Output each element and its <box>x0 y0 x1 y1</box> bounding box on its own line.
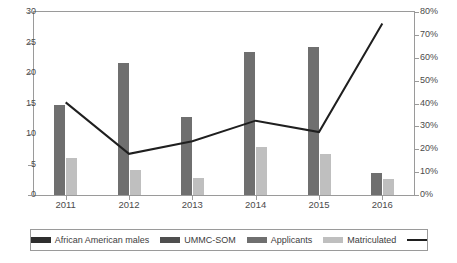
bar-applicants-2012 <box>118 63 129 195</box>
legend-item-label: Matriculated <box>347 236 396 245</box>
legend-item[interactable]: UMMC-SOM <box>160 236 236 245</box>
right-axis-tick-label: 20% <box>420 144 452 153</box>
legend-item[interactable]: Applicants <box>247 236 313 245</box>
chart-container: 051015202530 0%10%20%30%40%50%60%70%80% … <box>0 0 457 263</box>
right-axis-tickmark <box>414 35 419 36</box>
legend-item[interactable] <box>407 239 427 241</box>
right-axis-tick-label: 80% <box>420 7 452 16</box>
left-axis-tick-label: 25 <box>10 38 36 47</box>
category-axis-label: 2011 <box>44 200 88 210</box>
left-axis-tickmark <box>28 134 33 135</box>
legend-item-label: UMMC-SOM <box>184 236 236 245</box>
right-axis-tick-label: 70% <box>420 30 452 39</box>
legend-item[interactable]: Matriculated <box>323 236 396 245</box>
left-axis-tickmark <box>28 195 33 196</box>
bar-applicants-2013 <box>181 117 192 195</box>
bar-applicants-2014 <box>244 52 255 195</box>
right-axis-tick-label: 0% <box>420 190 452 199</box>
right-axis-tick-label: 30% <box>420 121 452 130</box>
right-axis-tickmark <box>414 104 419 105</box>
right-axis-tickmark <box>414 172 419 173</box>
right-axis-tick-label: 50% <box>420 76 452 85</box>
bar-applicants-2016 <box>371 173 382 195</box>
right-axis-tickmark <box>414 81 419 82</box>
right-axis-tickmark <box>414 126 419 127</box>
bar-matriculated-2011 <box>66 158 77 195</box>
category-axis-tickmark <box>382 196 383 200</box>
bars-layer <box>34 12 414 195</box>
bar-applicants-2015 <box>308 47 319 195</box>
left-axis-tickmark <box>28 104 33 105</box>
category-axis-label: 2016 <box>360 200 404 210</box>
right-axis-tick-label: 60% <box>420 53 452 62</box>
category-axis-tickmark <box>319 196 320 200</box>
legend-color-swatch-icon <box>247 237 267 243</box>
right-axis-tick-label: 40% <box>420 99 452 108</box>
bar-matriculated-2015 <box>320 154 331 195</box>
bar-matriculated-2012 <box>130 170 141 195</box>
category-axis-tickmark <box>256 196 257 200</box>
legend-color-swatch-icon <box>160 237 180 243</box>
left-axis-tickmark <box>28 73 33 74</box>
legend-line-swatch-icon <box>407 239 427 241</box>
bar-matriculated-2014 <box>256 147 267 195</box>
category-axis-label: 2012 <box>107 200 151 210</box>
category-axis-tickmark <box>192 196 193 200</box>
category-axis-label: 2014 <box>234 200 278 210</box>
bar-applicants-2011 <box>54 105 65 195</box>
category-axis-tickmark <box>66 196 67 200</box>
right-axis-tickmark <box>414 12 419 13</box>
right-axis-tickmark <box>414 149 419 150</box>
legend-item-label: African American males <box>55 236 150 245</box>
right-axis-tick-label: 10% <box>420 167 452 176</box>
category-axis-tickmark <box>129 196 130 200</box>
right-axis-tickmark <box>414 195 419 196</box>
left-axis-tickmark <box>28 12 33 13</box>
chart-legend: African American malesUMMC-SOMApplicants… <box>30 229 428 251</box>
right-axis-tickmark <box>414 58 419 59</box>
category-axis-label: 2015 <box>297 200 341 210</box>
legend-item[interactable]: African American males <box>31 236 150 245</box>
left-axis-tick-label: 5 <box>10 160 36 169</box>
category-axis-label: 2013 <box>170 200 214 210</box>
left-axis-tick-label: 15 <box>10 99 36 108</box>
bar-matriculated-2016 <box>383 179 394 195</box>
bar-matriculated-2013 <box>193 178 204 195</box>
left-axis-tickmark <box>28 43 33 44</box>
legend-color-swatch-icon <box>323 237 343 243</box>
left-axis-tickmark <box>28 165 33 166</box>
legend-color-swatch-icon <box>31 237 51 243</box>
legend-item-label: Applicants <box>271 236 313 245</box>
